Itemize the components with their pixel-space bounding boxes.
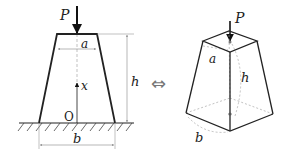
load-label-left: P <box>59 7 70 23</box>
edge-left <box>186 41 203 113</box>
bottom-center-point <box>228 112 231 115</box>
left-figure-trapezoid: P a h x O <box>18 6 139 149</box>
h-label-left: h <box>131 74 139 89</box>
x-label: x <box>81 79 88 93</box>
equivalence-symbol: ⇔ <box>151 73 166 94</box>
origin-label: O <box>64 110 74 124</box>
edge-right <box>257 41 273 114</box>
top-center-point <box>229 41 232 44</box>
b-label-left: b <box>73 131 81 146</box>
h-label-right: h <box>241 70 249 85</box>
a-label-right: a <box>209 52 216 66</box>
load-label-right: P <box>234 10 245 26</box>
truncated-pyramid-diagram: P a h x O <box>0 0 286 159</box>
b-label-right: b <box>195 130 203 145</box>
right-figure-frustum: P a h b <box>186 10 273 145</box>
a-label-left: a <box>81 37 88 51</box>
